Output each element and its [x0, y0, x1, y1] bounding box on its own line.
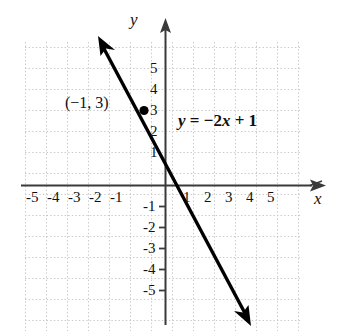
x-tick-label-1: 1	[183, 190, 191, 205]
point-label: (−1, 3)	[65, 95, 109, 111]
equation-plus: +	[235, 111, 245, 130]
plotted-point-marker	[139, 106, 148, 115]
equation-lhs: y	[178, 111, 186, 130]
equation-label: y = −2x + 1	[178, 112, 257, 129]
y-tick-label-1: 1	[150, 145, 158, 160]
y-tick-label-4: 4	[150, 82, 158, 97]
x-tick-label-neg5: -5	[26, 190, 39, 205]
y-tick-label-neg1: -1	[143, 199, 156, 214]
x-tick-label-4: 4	[246, 190, 254, 205]
x-tick-label-5: 5	[267, 190, 275, 205]
x-axis-label: x	[314, 190, 322, 207]
x-tick-label-neg4: -4	[47, 190, 60, 205]
graph-canvas	[0, 0, 340, 336]
y-tick-label-3: 3	[150, 103, 158, 118]
x-tick-label-neg2: -2	[89, 190, 102, 205]
equation-coefficient: −2	[204, 111, 222, 130]
x-tick-label-neg3: -3	[68, 190, 81, 205]
y-tick-label-neg3: -3	[143, 241, 156, 256]
x-tick-label-2: 2	[204, 190, 212, 205]
coordinate-plane-figure: y x -5 -4 -3 -2 -1 1 2 3 4 5 5 4 3 2 1 -…	[0, 0, 340, 336]
y-tick-label-neg2: -2	[143, 220, 156, 235]
y-tick-label-neg4: -4	[143, 262, 156, 277]
function-line	[98, 36, 251, 326]
x-tick-label-neg1: -1	[110, 190, 123, 205]
y-tick-label-5: 5	[150, 61, 158, 76]
y-tick-label-2: 2	[150, 124, 158, 139]
equation-constant: 1	[249, 111, 258, 130]
y-tick-label-neg5: -5	[143, 283, 156, 298]
y-axis-label: y	[130, 11, 138, 28]
x-tick-label-3: 3	[225, 190, 233, 205]
